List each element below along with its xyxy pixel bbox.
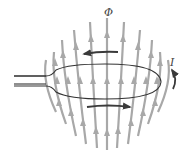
diagram-svg: Φ I xyxy=(0,0,189,158)
arrowhead-icon xyxy=(88,34,94,42)
arrowhead-icon xyxy=(115,126,121,134)
arrowhead-icon xyxy=(80,118,86,126)
current-loop xyxy=(14,64,161,99)
bottom-circulation-arrow xyxy=(87,106,130,108)
arrowhead-icon xyxy=(104,76,110,84)
arrowhead-icon xyxy=(68,108,74,116)
arrowhead-icon xyxy=(135,42,141,50)
arrowhead-icon xyxy=(157,58,163,66)
current-label: I xyxy=(169,56,175,69)
flux-label: Φ xyxy=(104,6,113,19)
top-circulation-arrow xyxy=(84,52,118,54)
arrowhead-icon xyxy=(104,30,110,38)
flux-loop-diagram: Φ I xyxy=(0,0,189,158)
arrowhead-icon xyxy=(140,108,146,116)
arrowhead-icon xyxy=(56,98,62,106)
arrowhead-icon xyxy=(60,50,66,58)
arrowhead-icon xyxy=(152,98,158,106)
loop-wire xyxy=(14,64,161,99)
arrowhead-icon xyxy=(73,42,79,50)
arrowhead-icon xyxy=(128,118,134,126)
arrowhead-icon xyxy=(104,128,110,136)
arrowhead-icon xyxy=(90,76,96,84)
current-direction-arrow xyxy=(172,70,175,89)
arrowhead-icon xyxy=(148,50,154,58)
arrowhead-icon xyxy=(93,126,99,134)
arrowhead-icon xyxy=(120,34,126,42)
arrowhead-icon xyxy=(118,76,124,84)
